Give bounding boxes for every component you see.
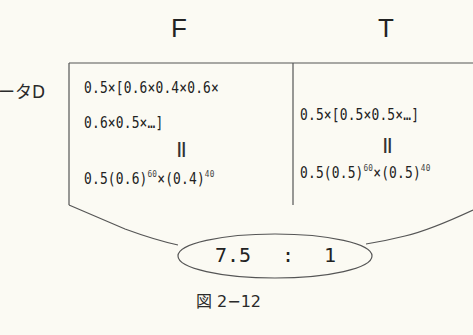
t-cell-formula: 0.5(0.5)60×(0.5)40 [300,163,431,182]
f-cell-line2: 0.6×0.5×…] [84,114,163,132]
f-cell-equals: || [177,140,186,158]
left-merge-curve [69,205,178,245]
t-formula-exp2: 40 [421,163,431,173]
f-formula-exp1: 60 [148,169,158,179]
header-f: F [171,13,187,44]
figure-caption: 図 2−12 [196,288,261,312]
f-cell-formula: 0.5(0.6)60×(0.4)40 [84,169,215,188]
ratio-left: 7.5 [215,243,251,267]
f-cell-line1: 0.5×[0.6×0.4×0.6× [84,79,219,97]
t-cell-equals: || [383,136,392,154]
t-formula-mid: ×(0.5) [373,164,421,182]
f-formula-mid: ×(0.4) [157,170,205,188]
ratio-ellipse [178,234,372,278]
f-formula-base: 0.5(0.6) [84,170,148,188]
ratio-separator: : [282,243,294,267]
f-formula-exp2: 40 [205,169,215,179]
t-cell-line1: 0.5×[0.5×0.5×…] [300,106,419,124]
ratio-right: 1 [324,243,336,267]
right-merge-curve [366,210,473,244]
row-label: ータD [0,78,45,103]
t-formula-base: 0.5(0.5) [300,164,364,182]
header-t: T [378,13,394,44]
t-formula-exp1: 60 [364,163,374,173]
